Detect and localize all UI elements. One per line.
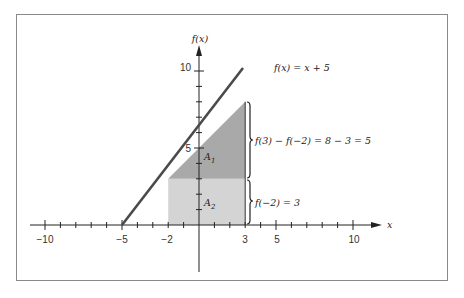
brace-upper bbox=[247, 102, 253, 178]
x-tick-label: 5 bbox=[274, 234, 280, 245]
y-axis-arrow-icon bbox=[196, 45, 202, 56]
y-axis-title: f(x) bbox=[191, 33, 209, 44]
x-tick-label: 3 bbox=[242, 234, 248, 245]
x-tick-label: −10 bbox=[37, 234, 54, 245]
y-tick-label: 10 bbox=[180, 62, 192, 73]
x-tick-label: 10 bbox=[348, 234, 360, 245]
brace-lower-label: f(−2) = 3 bbox=[254, 197, 300, 208]
x-axis-title: x bbox=[387, 219, 393, 230]
x-axis-arrow-icon bbox=[371, 222, 382, 228]
x-tick-label: −2 bbox=[161, 234, 173, 245]
chart-svg: −10 −5 −2 3 5 10 5 10 f(x) x f(x) = x + … bbox=[0, 0, 464, 298]
brace-upper-label: f(3) − f(−2) = 8 − 3 = 5 bbox=[254, 135, 371, 146]
x-tick-label: −5 bbox=[116, 234, 128, 245]
brace-lower bbox=[247, 180, 253, 224]
y-tick-label: 5 bbox=[185, 143, 191, 154]
function-label: f(x) = x + 5 bbox=[273, 62, 330, 73]
